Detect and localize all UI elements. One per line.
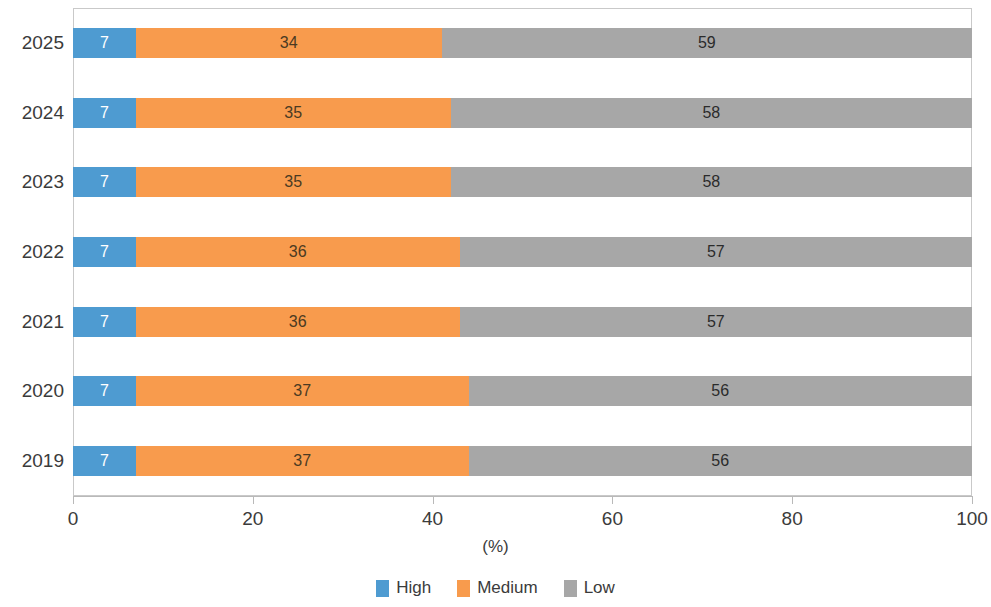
bar-segment-medium[interactable]: 35 — [136, 98, 451, 128]
x-tick-label: 20 — [213, 508, 293, 530]
x-tick — [612, 496, 613, 504]
bar-segment-value: 34 — [280, 35, 298, 51]
x-tick-label: 0 — [33, 508, 113, 530]
bar-segment-low[interactable]: 59 — [442, 28, 972, 58]
bar-segment-high[interactable]: 7 — [73, 376, 136, 406]
bar-segment-value: 56 — [711, 453, 729, 469]
bar-segment-value: 7 — [100, 314, 109, 330]
x-tick — [792, 496, 793, 504]
bar-segment-value: 58 — [702, 105, 720, 121]
category-label: 2024 — [0, 98, 64, 128]
legend-item-high[interactable]: High — [376, 578, 431, 598]
bars-layer: 73459735587355873657736577375673756 — [73, 8, 972, 496]
bar-segment-low[interactable]: 58 — [451, 167, 972, 197]
bar-segment-high[interactable]: 7 — [73, 167, 136, 197]
bar-segment-high[interactable]: 7 — [73, 307, 136, 337]
bar-segment-value: 56 — [711, 383, 729, 399]
legend-item-low[interactable]: Low — [564, 578, 615, 598]
bar-segment-low[interactable]: 56 — [469, 446, 972, 476]
bar-segment-value: 35 — [284, 105, 302, 121]
bar-segment-high[interactable]: 7 — [73, 237, 136, 267]
bar-segment-low[interactable]: 58 — [451, 98, 972, 128]
category-label: 2022 — [0, 237, 64, 267]
x-tick-label: 100 — [932, 508, 991, 530]
bar-segment-value: 37 — [293, 383, 311, 399]
category-label: 2025 — [0, 28, 64, 58]
legend-label: Low — [584, 578, 615, 598]
category-label: 2019 — [0, 446, 64, 476]
x-axis-title: (%) — [0, 537, 991, 557]
x-tick — [972, 496, 973, 504]
bar-segment-low[interactable]: 57 — [460, 307, 972, 337]
category-label: 2021 — [0, 307, 64, 337]
bar-segment-medium[interactable]: 37 — [136, 376, 469, 406]
bar-row: 73756 — [73, 446, 972, 476]
x-axis-line — [73, 496, 972, 497]
category-label: 2023 — [0, 167, 64, 197]
bar-segment-value: 7 — [100, 244, 109, 260]
x-tick — [433, 496, 434, 504]
chart-legend: HighMediumLow — [0, 578, 991, 598]
bar-segment-value: 36 — [289, 244, 307, 260]
bar-segment-value: 37 — [293, 453, 311, 469]
category-axis-labels: 2025202420232022202120202019 — [0, 8, 64, 496]
bar-segment-value: 57 — [707, 314, 725, 330]
bar-segment-high[interactable]: 7 — [73, 28, 136, 58]
bar-segment-medium[interactable]: 36 — [136, 307, 460, 337]
bar-row: 73657 — [73, 307, 972, 337]
legend-label: High — [396, 578, 431, 598]
bar-segment-value: 36 — [289, 314, 307, 330]
x-tick — [253, 496, 254, 504]
legend-swatch-icon — [564, 580, 577, 597]
bar-segment-value: 59 — [698, 35, 716, 51]
bar-row: 73459 — [73, 28, 972, 58]
bar-segment-value: 7 — [100, 174, 109, 190]
bar-segment-value: 58 — [702, 174, 720, 190]
legend-label: Medium — [477, 578, 537, 598]
bar-row: 73657 — [73, 237, 972, 267]
bar-segment-value: 35 — [284, 174, 302, 190]
bar-row: 73558 — [73, 98, 972, 128]
bar-segment-value: 7 — [100, 35, 109, 51]
x-tick — [73, 496, 74, 504]
bar-segment-high[interactable]: 7 — [73, 446, 136, 476]
x-tick-label: 40 — [393, 508, 473, 530]
bar-segment-medium[interactable]: 35 — [136, 167, 451, 197]
bar-segment-low[interactable]: 56 — [469, 376, 972, 406]
legend-item-medium[interactable]: Medium — [457, 578, 537, 598]
legend-swatch-icon — [376, 580, 389, 597]
bar-segment-medium[interactable]: 36 — [136, 237, 460, 267]
x-tick-label: 80 — [752, 508, 832, 530]
bar-segment-value: 7 — [100, 383, 109, 399]
bar-segment-value: 7 — [100, 105, 109, 121]
bar-segment-high[interactable]: 7 — [73, 98, 136, 128]
bar-row: 73756 — [73, 376, 972, 406]
bar-segment-medium[interactable]: 37 — [136, 446, 469, 476]
bar-segment-value: 7 — [100, 453, 109, 469]
stacked-bar-chart: 2025202420232022202120202019 73459735587… — [0, 0, 991, 607]
bar-segment-low[interactable]: 57 — [460, 237, 972, 267]
bar-row: 73558 — [73, 167, 972, 197]
legend-swatch-icon — [457, 580, 470, 597]
bar-segment-medium[interactable]: 34 — [136, 28, 442, 58]
x-tick-label: 60 — [572, 508, 652, 530]
category-label: 2020 — [0, 376, 64, 406]
bar-segment-value: 57 — [707, 244, 725, 260]
